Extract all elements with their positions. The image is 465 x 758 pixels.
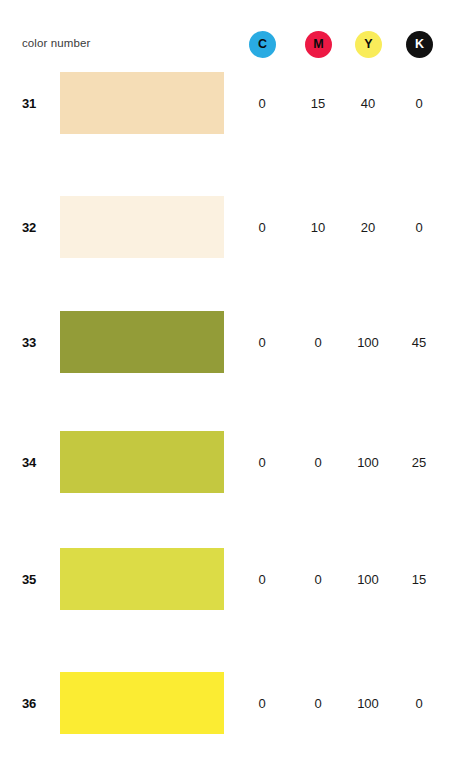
ink-value-magenta: 0 xyxy=(295,431,341,493)
ink-value-yellow: 100 xyxy=(345,672,391,734)
color-swatch xyxy=(60,72,224,134)
ink-value-cyan: 0 xyxy=(239,672,285,734)
ink-value-cyan: 0 xyxy=(239,196,285,258)
color-number: 33 xyxy=(0,311,50,373)
ink-value-black: 0 xyxy=(396,672,442,734)
ink-value-cyan: 0 xyxy=(239,311,285,373)
ink-value-black: 0 xyxy=(396,72,442,134)
ink-value-black: 25 xyxy=(396,431,442,493)
color-number: 31 xyxy=(0,72,50,134)
ink-value-yellow: 40 xyxy=(345,72,391,134)
ink-value-yellow: 100 xyxy=(345,548,391,610)
ink-badge-letter: M xyxy=(313,38,323,51)
ink-value-magenta: 0 xyxy=(295,672,341,734)
ink-badge-letter: C xyxy=(258,38,267,51)
color-swatch xyxy=(60,672,224,734)
ink-badge-yellow: Y xyxy=(355,31,382,58)
ink-value-magenta: 0 xyxy=(295,548,341,610)
color-number: 32 xyxy=(0,196,50,258)
color-number-label: color number xyxy=(22,37,90,49)
ink-value-black: 45 xyxy=(396,311,442,373)
color-row: 36001000 xyxy=(0,672,465,734)
ink-value-magenta: 10 xyxy=(295,196,341,258)
ink-value-yellow: 100 xyxy=(345,431,391,493)
ink-badge-black: K xyxy=(406,31,433,58)
color-number: 35 xyxy=(0,548,50,610)
color-number: 36 xyxy=(0,672,50,734)
ink-badge-magenta: M xyxy=(305,31,332,58)
ink-value-yellow: 100 xyxy=(345,311,391,373)
ink-value-black: 0 xyxy=(396,196,442,258)
color-row: 350010015 xyxy=(0,548,465,610)
chart-header: color number CMYK xyxy=(0,30,465,62)
cmyk-color-chart-page: { "header": { "label": "color number", "… xyxy=(0,0,465,758)
ink-value-magenta: 15 xyxy=(295,72,341,134)
color-row: 330010045 xyxy=(0,311,465,373)
ink-value-black: 15 xyxy=(396,548,442,610)
color-row: 31015400 xyxy=(0,72,465,134)
ink-value-cyan: 0 xyxy=(239,431,285,493)
color-row: 340010025 xyxy=(0,431,465,493)
color-swatch xyxy=(60,311,224,373)
ink-value-cyan: 0 xyxy=(239,72,285,134)
color-row: 32010200 xyxy=(0,196,465,258)
color-swatch xyxy=(60,548,224,610)
ink-value-yellow: 20 xyxy=(345,196,391,258)
color-swatch xyxy=(60,196,224,258)
color-number: 34 xyxy=(0,431,50,493)
ink-badge-letter: Y xyxy=(364,38,372,51)
ink-badge-letter: K xyxy=(415,38,424,51)
ink-value-cyan: 0 xyxy=(239,548,285,610)
ink-badge-cyan: C xyxy=(249,31,276,58)
color-swatch xyxy=(60,431,224,493)
ink-value-magenta: 0 xyxy=(295,311,341,373)
